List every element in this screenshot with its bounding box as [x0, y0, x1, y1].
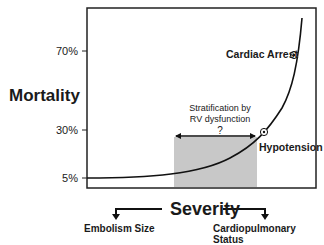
embolism-size-label: Embolism Size — [84, 223, 155, 234]
y-tick-label-70: 70% — [38, 45, 78, 57]
stratification-label-line2: RV dysfunction — [175, 114, 265, 124]
cardiac-arrest-label: Cardiac Arrest — [226, 48, 298, 60]
y-tick-label-30: 30% — [38, 124, 78, 136]
stratification-label-line1: Stratification by — [175, 103, 265, 113]
stratification-region — [174, 137, 257, 187]
y-axis-title: Mortality — [9, 86, 80, 106]
severity-left-arrow — [112, 209, 162, 220]
stratification-question: ? — [175, 125, 265, 136]
hypotension-label: Hypotension — [259, 141, 323, 153]
y-tick-label-5: 5% — [38, 172, 78, 184]
cardiopulmonary-status-label: Cardiopulmonary Status — [213, 223, 324, 245]
x-axis-title: Severity — [170, 199, 240, 220]
